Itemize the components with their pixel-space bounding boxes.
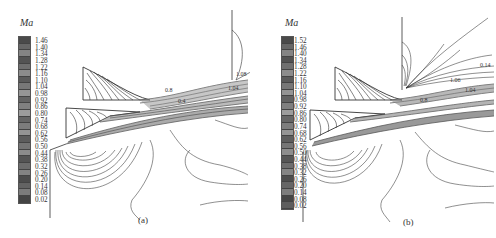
annotation-b-2: 1.06 xyxy=(450,77,461,83)
panel-b: Ma 1.521.461.401.341.281.221.161.101.040… xyxy=(250,0,496,238)
upper-nozzle-contours-a xyxy=(83,67,150,100)
upper-fan-contours-b xyxy=(402,18,494,88)
annotation-b-1: 0.14 xyxy=(480,62,491,68)
mach-contour-plot-b: 0.14 1.06 1.04 0.8 xyxy=(250,0,496,238)
boundary-edge-a xyxy=(50,144,66,150)
annotation-a-3: 1.04 xyxy=(228,85,239,91)
caption-b: (b) xyxy=(403,217,414,227)
jet-plume-fill-a xyxy=(66,80,248,144)
far-field-contours-a xyxy=(55,120,248,220)
upper-nozzle-contours-b xyxy=(335,67,402,100)
mach-contour-plot-a: 1.08 0.5 1.04 0.4 0.8 xyxy=(0,0,250,238)
caption-a: (a) xyxy=(138,215,148,225)
panel-a: Ma 1.461.401.341.281.221.161.101.040.980… xyxy=(0,0,250,238)
jet-plume-fill-b xyxy=(312,84,494,146)
annotation-a-1: 1.08 xyxy=(236,71,247,77)
annotation-a-4: 0.4 xyxy=(178,98,186,104)
annotation-a-5: 0.8 xyxy=(165,87,173,93)
annotation-b-3: 1.04 xyxy=(465,87,476,93)
annotation-b-4: 0.8 xyxy=(420,97,428,103)
